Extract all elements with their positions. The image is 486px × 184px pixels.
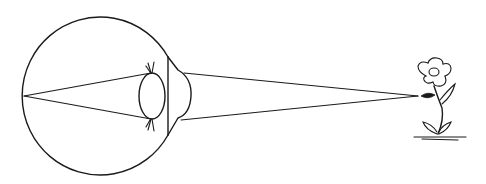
- eyeball: [22, 17, 168, 175]
- flower-object: [414, 58, 466, 140]
- lens: [139, 62, 165, 131]
- light-rays: [24, 73, 418, 120]
- cornea: [168, 57, 191, 135]
- diagram-svg: [0, 0, 486, 184]
- eye-diagram: Image formation in the human eye: [0, 0, 486, 184]
